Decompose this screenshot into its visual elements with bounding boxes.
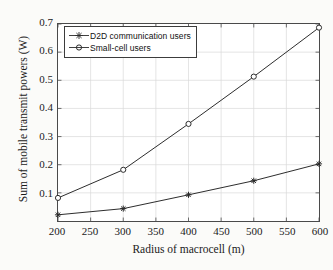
y-tick-label: 0.1	[20, 188, 53, 199]
legend: D2D communication users Small-cell users	[64, 26, 197, 58]
figure: Sum of mobile transmit powers (W) 0.10.2…	[0, 0, 333, 270]
x-tick-label: 600	[300, 226, 333, 237]
y-tick-label: 0.2	[20, 159, 53, 170]
x-axis-title: Radius of macrocell (m)	[57, 243, 320, 255]
legend-item-d2d[interactable]: D2D communication users	[68, 30, 191, 41]
y-tick-label: 0.3	[20, 131, 53, 142]
y-tick-label: 0.7	[20, 17, 53, 28]
legend-item-small-cell[interactable]: Small-cell users	[68, 42, 191, 53]
legend-label-small-cell: Small-cell users	[90, 43, 151, 53]
legend-label-d2d: D2D communication users	[90, 31, 191, 41]
series-d2d	[55, 161, 322, 218]
circle-marker-icon	[68, 42, 90, 53]
y-tick-label: 0.5	[20, 74, 53, 85]
y-tick-label: 0.6	[20, 45, 53, 56]
y-tick-label: 0.4	[20, 102, 53, 113]
asterisk-marker-icon	[68, 30, 90, 41]
